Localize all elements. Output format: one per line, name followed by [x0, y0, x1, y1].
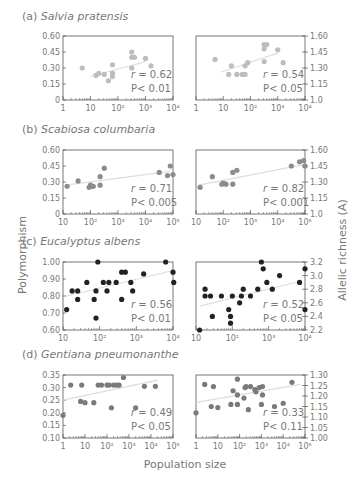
data-point: [209, 404, 214, 409]
data-point: [98, 183, 103, 188]
data-point: [223, 182, 228, 187]
data-point: [211, 384, 216, 389]
x-tick-label: 10³: [111, 218, 124, 227]
data-point: [75, 288, 80, 293]
y-tick-label: 0.10: [42, 434, 60, 443]
data-point: [230, 388, 235, 393]
data-point: [76, 178, 81, 183]
x-tick-label: 10⁴: [277, 442, 290, 451]
y-tick-label: 1.00: [42, 258, 60, 267]
data-point: [212, 57, 217, 62]
data-point: [80, 65, 85, 70]
y-tick-label: 0: [55, 96, 60, 105]
p-value: P< 0.11: [263, 421, 303, 432]
x-tick-label: 10⁴: [298, 104, 311, 113]
data-point: [230, 293, 235, 298]
x-tick-label: 10⁴: [144, 442, 157, 451]
y-tick-label: 1.00: [310, 434, 328, 443]
data-point: [230, 182, 235, 187]
data-point: [202, 382, 207, 387]
p-value: P< 0.01: [131, 83, 171, 94]
data-point: [95, 259, 100, 264]
p-value: P< 0.01: [131, 313, 171, 324]
y-tick-label: 1.45: [310, 162, 328, 171]
x-tick-label: 10: [218, 104, 228, 113]
x-tick-label: 10⁵: [166, 442, 179, 451]
data-point: [148, 63, 153, 68]
y-tick-label: 1.15: [310, 80, 328, 89]
plot-d-left: 0.100.150.200.250.300.3511010²10³10⁴10⁵r…: [42, 371, 180, 451]
data-point: [193, 410, 198, 415]
y-tick-label: 1.45: [310, 48, 328, 57]
x-tick-label: 1: [60, 104, 65, 113]
data-point: [106, 280, 111, 285]
y-tick-label: 0.25: [42, 396, 60, 405]
data-point: [197, 327, 202, 332]
data-point: [255, 287, 260, 292]
data-point: [264, 42, 269, 47]
data-point: [228, 402, 233, 407]
y-tick-label: 1.30: [310, 371, 328, 380]
y-tick-label: 0.15: [42, 421, 60, 430]
panel-c: (c) Eucalyptus albens0.600.700.800.901.0…: [22, 235, 323, 343]
y-tick-label: 1.25: [310, 382, 328, 391]
data-point: [70, 288, 75, 293]
data-point: [99, 382, 104, 387]
y-tick-label: 1.15: [310, 194, 328, 203]
y-tick-label: 2.8: [310, 285, 323, 294]
data-point: [117, 382, 122, 387]
x-tick-label: 10⁵: [166, 218, 179, 227]
data-point: [229, 63, 234, 68]
x-tick-label: 10²: [100, 442, 113, 451]
x-tick-label: 10: [213, 442, 223, 451]
x-tick-label: 10⁴: [298, 334, 311, 343]
data-point: [242, 72, 247, 77]
plot-b-right: 1.01.151.301.451.601010²10³10⁴10⁵r = 0.8…: [191, 146, 328, 227]
y-tick-label: 1.30: [310, 178, 328, 187]
r-value: r = 0.52: [263, 299, 304, 310]
data-point: [202, 293, 207, 298]
data-point: [123, 270, 128, 275]
regression-line: [67, 271, 173, 297]
data-point: [302, 163, 307, 168]
y-tick-label: 1.60: [310, 32, 328, 41]
data-point: [129, 49, 134, 54]
data-point: [106, 78, 111, 83]
y-tick-label: 1.05: [310, 424, 328, 433]
data-point: [237, 300, 242, 305]
x-tick-label: 10³: [255, 442, 268, 451]
data-point: [219, 293, 224, 298]
y-tick-label: 0.60: [42, 146, 60, 155]
x-tick-label: 10⁴: [139, 218, 152, 227]
data-point: [96, 71, 101, 76]
data-point: [241, 396, 246, 401]
data-point: [141, 271, 146, 276]
y-tick-label: 1.0: [310, 96, 323, 105]
y-tick-label: 0.30: [42, 384, 60, 393]
x-tick-label: 10: [80, 442, 90, 451]
data-point: [132, 55, 137, 60]
data-point: [226, 307, 231, 312]
data-point: [235, 377, 240, 382]
data-point: [261, 266, 266, 271]
data-point: [262, 46, 267, 51]
x-tick-label: 10: [191, 334, 201, 343]
data-point: [65, 184, 70, 189]
panel-title: (c) Eucalyptus albens: [22, 235, 140, 248]
y-tick-label: 1.15: [310, 403, 328, 412]
data-point: [270, 287, 275, 292]
x-tick-label: 10²: [93, 334, 106, 343]
x-tick-label: 10⁵: [298, 442, 311, 451]
panel-title: (a) Salvia pratensis: [22, 10, 128, 23]
x-tick-label: 10: [58, 334, 68, 343]
data-point: [110, 74, 115, 79]
x-tick-label: 10⁴: [271, 218, 284, 227]
p-value: P< 0.005: [131, 197, 177, 208]
y-tick-label: 1.10: [310, 413, 328, 422]
x-tick-label: 10²: [226, 334, 239, 343]
data-point: [226, 72, 231, 77]
y-tick-label: 1.20: [310, 392, 328, 401]
data-point: [93, 288, 98, 293]
y-tick-label: 0.30: [42, 64, 60, 73]
data-point: [260, 392, 265, 397]
